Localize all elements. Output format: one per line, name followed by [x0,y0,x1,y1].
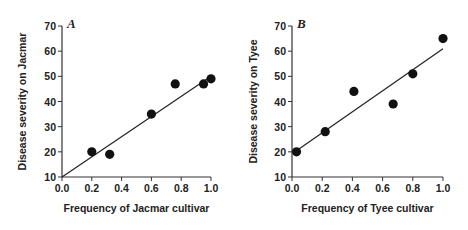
y-axis-label: Disease severity on Tyee [247,39,259,163]
y-tick-label: 30 [274,121,286,133]
y-tick-label: 30 [44,121,56,133]
regression-line [295,49,443,152]
data-point [321,127,330,136]
data-point [87,147,96,156]
y-axis-label: Disease severity on Jacmar [16,33,28,171]
data-point [147,109,156,118]
data-point [389,99,398,108]
panel-label: A [66,16,76,31]
y-tick-label: 40 [274,96,286,108]
y-tick-label: 50 [274,70,286,82]
x-tick-label: 0.2 [84,182,99,194]
data-point [349,87,358,96]
data-point [171,79,180,88]
x-tick-label: 0.4 [345,182,360,194]
x-tick-label: 1.0 [204,182,219,194]
x-tick-label: 0.0 [285,182,300,194]
data-point [206,74,215,83]
x-tick-label: 0.8 [174,182,189,194]
figure: 102030405060700.00.20.40.60.81.0AFrequen… [0,0,468,230]
y-tick-label: 70 [274,20,286,32]
y-tick-label: 40 [44,96,56,108]
x-axis-label: Frequency of Tyee cultivar [301,202,433,214]
x-tick-label: 0.2 [315,182,330,194]
data-point [438,34,447,43]
regression-line [62,76,211,177]
x-tick-label: 0.6 [375,182,390,194]
data-point [199,79,208,88]
data-point [408,69,417,78]
y-tick-label: 20 [274,146,286,158]
chart-panel-b: 102030405060700.00.20.40.60.81.0BFrequen… [247,16,450,214]
y-tick-label: 70 [44,20,56,32]
x-tick-label: 1.0 [436,182,451,194]
panel-label: B [296,16,306,31]
x-tick-label: 0.4 [114,182,129,194]
x-tick-label: 0.8 [405,182,420,194]
y-tick-label: 60 [274,45,286,57]
x-tick-label: 0.0 [55,182,70,194]
y-tick-label: 50 [44,70,56,82]
y-tick-label: 60 [44,45,56,57]
x-tick-label: 0.6 [144,182,159,194]
data-point [105,150,114,159]
y-tick-label: 20 [44,146,56,158]
data-point [292,147,301,156]
chart-panel-a: 102030405060700.00.20.40.60.81.0AFrequen… [16,16,218,214]
x-axis-label: Frequency of Jacmar cultivar [64,202,210,214]
